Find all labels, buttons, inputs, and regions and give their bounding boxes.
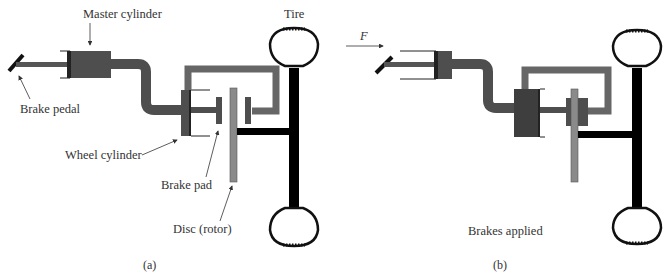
push-rod <box>16 62 68 67</box>
disc-rotor <box>230 88 237 182</box>
label-force: F <box>359 29 368 43</box>
axle-hub <box>237 128 291 135</box>
caption-a: (a) <box>143 258 156 272</box>
label-brake-pad: Brake pad <box>161 178 213 192</box>
tire-bottom-b <box>613 208 661 244</box>
label-wheel-cylinder: Wheel cylinder <box>65 148 143 162</box>
disc-rotor-b <box>571 89 578 182</box>
label-brake-pedal: Brake pedal <box>20 102 81 116</box>
tire-top-b <box>613 30 661 66</box>
tire-bottom <box>270 208 318 246</box>
wheel-cylinder-b <box>514 89 538 137</box>
brake-diagram: Master cylinder Tire Brake pedal Wheel c… <box>0 0 672 274</box>
brake-line-b <box>452 64 516 108</box>
label-brakes-applied: Brakes applied <box>468 224 543 238</box>
tire-top <box>270 28 318 66</box>
master-cylinder-b <box>438 51 452 79</box>
brake-pad-right <box>245 97 251 124</box>
master-cylinder <box>71 51 111 78</box>
brake-pad-left <box>216 97 222 124</box>
panel-b: F Brakes appl <box>346 29 661 272</box>
axle-b <box>632 68 642 208</box>
label-disc: Disc (rotor) <box>173 222 232 236</box>
label-tire: Tire <box>284 7 305 21</box>
axle <box>289 68 299 208</box>
label-master-cylinder: Master cylinder <box>83 7 163 21</box>
wheel-cylinder <box>181 90 189 136</box>
brake-line <box>111 64 183 110</box>
panel-a: Master cylinder Tire Brake pedal Wheel c… <box>9 7 318 272</box>
caption-b: (b) <box>493 258 507 272</box>
